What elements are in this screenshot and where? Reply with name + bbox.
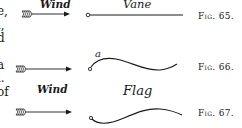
flag-curve-icon xyxy=(88,58,177,70)
point-a-label: a xyxy=(95,48,101,59)
wind-arrow-icon xyxy=(16,109,72,115)
flag-label: Flag xyxy=(123,83,152,98)
figure-caption: Fig. 66. xyxy=(198,62,234,72)
flag-curve-icon xyxy=(89,109,182,123)
wind-label: Wind xyxy=(40,0,71,10)
figure-caption: Fig. 67. xyxy=(198,108,234,118)
wind-arrow-icon xyxy=(22,11,70,17)
vane-label: Vane xyxy=(123,0,151,11)
wind-label: Wind xyxy=(37,83,68,95)
figure-caption: Fig. 65. xyxy=(198,11,234,21)
vane-icon xyxy=(86,13,183,17)
wind-arrow-icon xyxy=(16,66,72,72)
